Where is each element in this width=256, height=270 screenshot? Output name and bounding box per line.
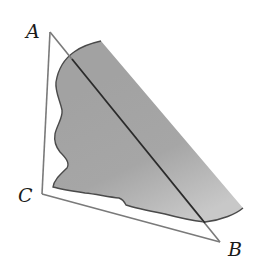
side-ac bbox=[42, 32, 50, 194]
triangle-region-diagram: A B C bbox=[0, 0, 256, 270]
vertex-label-a: A bbox=[24, 20, 40, 42]
shaded-region bbox=[53, 41, 243, 222]
vertex-label-b: B bbox=[227, 238, 242, 260]
region-fill bbox=[53, 41, 243, 222]
vertex-label-c: C bbox=[18, 184, 33, 206]
